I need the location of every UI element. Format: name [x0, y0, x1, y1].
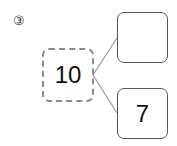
whole-number-box: 10 [42, 48, 94, 102]
part-box-bottom: 7 [117, 88, 168, 139]
whole-number: 10 [55, 61, 82, 89]
part-box-top-answer[interactable] [117, 12, 168, 63]
part-value-bottom: 7 [136, 100, 149, 128]
connector-line-top [93, 38, 117, 75]
connector-line-bottom [93, 75, 117, 113]
